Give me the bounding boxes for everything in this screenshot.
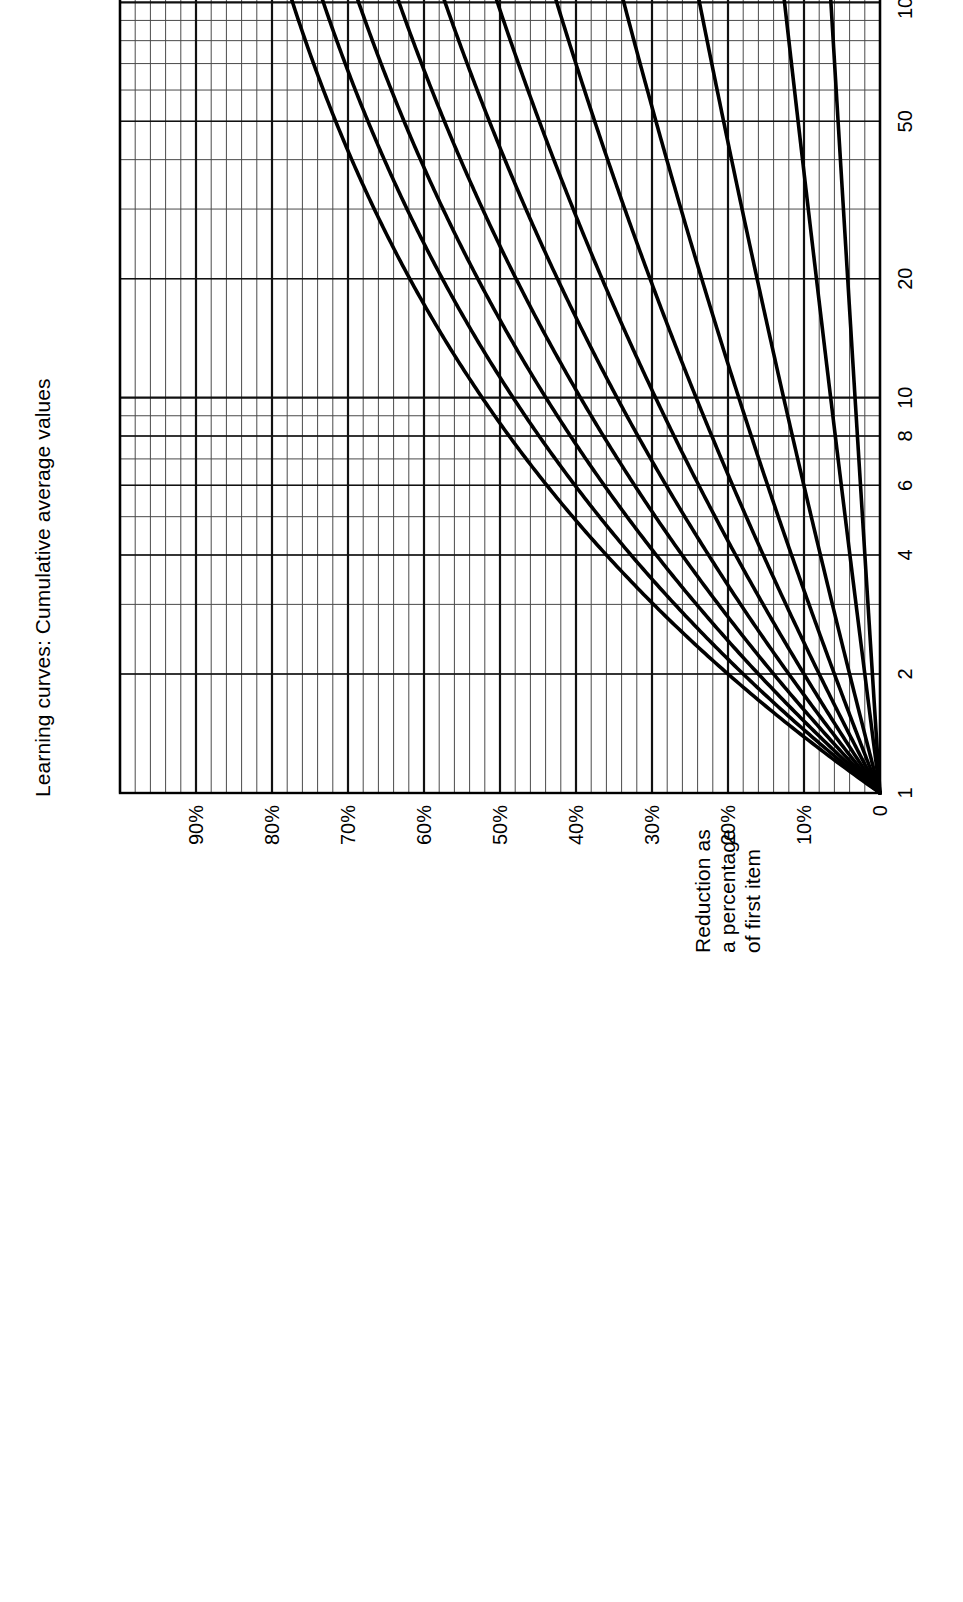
- x-tick-label: 2: [894, 668, 917, 679]
- rotated-figure-wrapper: Learning curves: Cumulative average valu…: [0, 0, 963, 963]
- grid-major-lines: [120, 0, 880, 793]
- y-tick-label: 0: [869, 805, 892, 816]
- y-tick-label: 30%: [641, 805, 664, 845]
- x-tick-label: 4: [894, 549, 917, 560]
- x-tick-label: 6: [894, 480, 917, 491]
- learning-curves-figure: Learning curves: Cumulative average valu…: [0, 0, 963, 963]
- y-tick-label: 70%: [337, 805, 360, 845]
- y-tick-label: 20%: [717, 805, 740, 845]
- y-tick-label: 90%: [185, 805, 208, 845]
- x-tick-label: 50: [894, 110, 917, 132]
- plot-area: [0, 0, 963, 963]
- y-tick-label: 80%: [261, 805, 284, 845]
- y-tick-label: 50%: [489, 805, 512, 845]
- y-tick-label: 60%: [413, 805, 436, 845]
- x-tick-label: 100: [894, 0, 917, 19]
- y-tick-label: 40%: [565, 805, 588, 845]
- x-tick-label: 20: [894, 268, 917, 290]
- x-tick-label: 10: [894, 387, 917, 409]
- x-tick-label: 8: [894, 430, 917, 441]
- chart-page: Learning curves: Cumulative average valu…: [0, 0, 963, 1602]
- y-tick-label: 10%: [793, 805, 816, 845]
- x-tick-label: 1: [894, 787, 917, 798]
